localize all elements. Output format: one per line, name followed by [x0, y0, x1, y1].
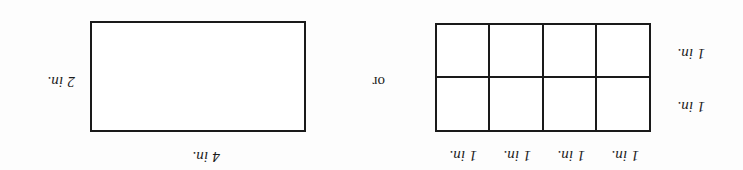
table-row	[436, 24, 650, 78]
grid-cell	[543, 24, 597, 78]
grid-cell	[490, 78, 544, 132]
grid-cell	[436, 24, 490, 78]
rectangle-shape	[90, 21, 306, 132]
figure-page: 1 in. 1 in. 1 in. 1 in. 1 in. 1 in.	[0, 0, 743, 170]
grid-table	[435, 23, 651, 132]
connector-word-or: or	[373, 73, 386, 90]
grid-top-label-1: 1 in.	[611, 147, 639, 164]
grid-left-label-2: 1 in.	[677, 45, 705, 62]
grid-top-label-3: 1 in.	[503, 147, 531, 164]
grid-top-label-4: 1 in.	[449, 147, 477, 164]
grid-cell	[597, 24, 651, 78]
grid-top-label-2: 1 in.	[557, 147, 585, 164]
grid-cell	[490, 24, 544, 78]
rectangle-top-label: 4 in.	[192, 148, 220, 165]
table-row	[436, 78, 650, 132]
grid-cell	[436, 78, 490, 132]
grid-cell	[597, 78, 651, 132]
unit-square-grid	[435, 23, 651, 132]
grid-cell	[543, 78, 597, 132]
rectangle-side-label: 2 in.	[47, 73, 75, 90]
rotated-figure-container: 1 in. 1 in. 1 in. 1 in. 1 in. 1 in.	[0, 0, 743, 170]
grid-left-label-1: 1 in.	[677, 98, 705, 115]
